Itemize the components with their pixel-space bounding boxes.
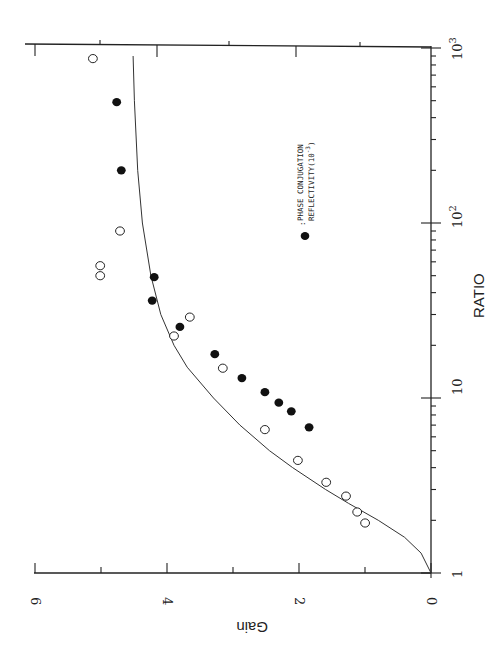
legend-marker-filled bbox=[301, 232, 310, 240]
legend-line-2: REFLECTIVITY(10-3) bbox=[304, 142, 316, 221]
gain-ticks bbox=[35, 563, 431, 578]
open-data-point bbox=[170, 332, 179, 340]
legend-line-1: PHASE CONJUGATION bbox=[296, 144, 305, 221]
top-ticks bbox=[35, 40, 360, 57]
filled-circle-series bbox=[112, 98, 313, 431]
ratio-tick-10: 10 bbox=[450, 378, 465, 395]
gain-tick-6: 6 bbox=[28, 597, 43, 605]
ratio-tick-labels: 1 10 102 103 bbox=[447, 37, 465, 578]
gain-vs-ratio-chart: 6 4 2 0 Gain 1 10 102 103 RATIO : PHASE … bbox=[0, 0, 500, 646]
theory-curve-path bbox=[133, 56, 431, 573]
top-axis bbox=[25, 44, 431, 47]
gain-tick-2: 2 bbox=[292, 597, 307, 605]
ratio-tick-1000: 103 bbox=[447, 37, 465, 60]
open-data-point bbox=[322, 478, 331, 486]
filled-data-point bbox=[112, 98, 121, 106]
gain-tick-0: 0 bbox=[424, 597, 439, 605]
open-data-point bbox=[185, 313, 194, 321]
open-data-point bbox=[353, 508, 362, 516]
filled-data-point bbox=[287, 407, 296, 415]
legend: : PHASE CONJUGATION REFLECTIVITY(10-3) bbox=[296, 142, 316, 240]
filled-data-point bbox=[210, 350, 219, 358]
filled-data-point bbox=[117, 166, 126, 174]
ratio-axis-label: RATIO bbox=[470, 273, 487, 318]
open-data-point bbox=[342, 492, 351, 500]
theory-curve bbox=[133, 56, 431, 573]
filled-data-point bbox=[261, 388, 270, 396]
filled-data-point bbox=[150, 273, 159, 281]
axes bbox=[25, 44, 431, 573]
legend-colon: : bbox=[298, 221, 307, 226]
open-circle-series bbox=[89, 55, 370, 528]
open-data-point bbox=[96, 272, 105, 280]
gain-tick-4: 4 bbox=[160, 597, 175, 605]
open-data-point bbox=[89, 55, 98, 63]
gain-axis-label: Gain bbox=[236, 619, 268, 636]
open-data-point bbox=[261, 426, 270, 434]
filled-data-point bbox=[305, 423, 314, 431]
ratio-tick-1: 1 bbox=[450, 570, 465, 578]
open-data-point bbox=[294, 456, 303, 464]
open-data-point bbox=[116, 227, 125, 235]
ratio-tick-100: 102 bbox=[447, 205, 465, 228]
filled-data-point bbox=[148, 297, 157, 305]
open-data-point bbox=[218, 364, 227, 372]
filled-data-point bbox=[274, 399, 283, 407]
filled-data-point bbox=[176, 323, 185, 331]
open-data-point bbox=[96, 262, 105, 270]
open-data-point bbox=[361, 519, 370, 527]
filled-data-point bbox=[238, 374, 247, 382]
gain-tick-labels: 6 4 2 0 bbox=[28, 597, 439, 605]
